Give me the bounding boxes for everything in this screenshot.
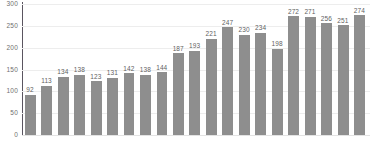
bar[interactable] [41, 86, 52, 135]
bar[interactable] [272, 49, 283, 135]
bar-value-label: 134 [57, 69, 68, 76]
bar[interactable] [239, 35, 250, 135]
x-axis-tick-label [220, 138, 236, 147]
x-axis-tick-label [170, 138, 186, 147]
x-axis-tick-label [71, 138, 87, 147]
bar[interactable] [222, 27, 233, 135]
bar-value-label: 193 [189, 43, 200, 50]
bar-slot[interactable]: 187 [170, 4, 186, 135]
x-axis-tick-label [154, 138, 170, 147]
plot-area: 9211313413812313114213814418719322124723… [22, 4, 370, 135]
bar[interactable] [354, 15, 365, 135]
x-axis-tick-label [236, 138, 252, 147]
bar-slot[interactable]: 247 [220, 4, 236, 135]
bar-value-label: 131 [107, 70, 118, 77]
bar-value-label: 272 [288, 9, 299, 16]
x-axis-tick-label [318, 138, 334, 147]
bar[interactable] [305, 17, 316, 135]
bar[interactable] [58, 77, 69, 136]
bar-value-label: 138 [74, 67, 85, 74]
bar-slot[interactable]: 142 [121, 4, 137, 135]
bar-slot[interactable]: 274 [351, 4, 367, 135]
x-axis-tick-label [335, 138, 351, 147]
bar-slot[interactable]: 138 [71, 4, 87, 135]
y-axis-tick-label: 100 [7, 88, 18, 95]
bar-slot[interactable]: 221 [203, 4, 219, 135]
x-axis-tick-label [302, 138, 318, 147]
bar-value-label: 271 [304, 9, 315, 16]
bar-slot[interactable]: 193 [187, 4, 203, 135]
x-axis-tick-labels [22, 138, 368, 147]
x-axis-tick-label [137, 138, 153, 147]
x-axis-tick-label [88, 138, 104, 147]
x-axis-tick-label [104, 138, 120, 147]
bar-value-label: 274 [354, 8, 365, 15]
bar[interactable] [107, 78, 118, 135]
bar[interactable] [255, 33, 266, 135]
y-axis-tick-label: 0 [14, 132, 18, 139]
x-axis-tick-label [269, 138, 285, 147]
bar-value-label: 247 [222, 20, 233, 27]
x-axis-tick-label [286, 138, 302, 147]
x-axis-tick-label [22, 138, 38, 147]
bar-slot[interactable]: 134 [55, 4, 71, 135]
bar[interactable] [206, 39, 217, 136]
bar-slot[interactable]: 123 [88, 4, 104, 135]
bar[interactable] [25, 95, 36, 135]
bar[interactable] [321, 23, 332, 135]
bar-slot[interactable]: 234 [253, 4, 269, 135]
bar-slot[interactable]: 271 [302, 4, 318, 135]
bar-slot[interactable]: 138 [137, 4, 153, 135]
x-axis-tick-label [187, 138, 203, 147]
x-axis-tick-label [121, 138, 137, 147]
bar-slot[interactable]: 198 [269, 4, 285, 135]
bar[interactable] [124, 73, 135, 135]
bar-slot[interactable]: 251 [335, 4, 351, 135]
y-axis-tick-label: 150 [7, 66, 18, 73]
bar[interactable] [157, 72, 168, 135]
bar-value-label: 123 [90, 74, 101, 81]
bar[interactable] [288, 16, 299, 135]
bar-slot[interactable]: 256 [318, 4, 334, 135]
bar-value-label: 144 [156, 65, 167, 72]
bar-value-label: 187 [173, 46, 184, 53]
x-axis-tick-label [253, 138, 269, 147]
y-axis-tick-label: 300 [7, 1, 18, 8]
y-axis-tick-label: 50 [10, 110, 18, 117]
y-axis-tick-label: 200 [7, 44, 18, 51]
x-axis-tick-label [38, 138, 54, 147]
bar-value-label: 230 [239, 27, 250, 34]
bar-value-label: 138 [140, 67, 151, 74]
bar[interactable] [173, 53, 184, 135]
bar[interactable] [74, 75, 85, 135]
bar[interactable] [91, 81, 102, 135]
bar-slot[interactable]: 131 [104, 4, 120, 135]
bar-value-label: 142 [123, 66, 134, 73]
bar-value-label: 113 [41, 78, 52, 85]
bar-value-label: 221 [206, 31, 217, 38]
bar-slot[interactable]: 230 [236, 4, 252, 135]
bar-value-label: 234 [255, 25, 266, 32]
bar-value-label: 198 [271, 41, 282, 48]
bar-value-label: 256 [321, 16, 332, 23]
bar-slot[interactable]: 272 [286, 4, 302, 135]
bar[interactable] [338, 25, 349, 135]
y-axis-tick-labels: 050100150200250300 [0, 0, 20, 147]
bar-slot[interactable]: 113 [38, 4, 54, 135]
bar-series: 9211313413812313114213814418719322124723… [22, 4, 368, 135]
bar-chart: 050100150200250300 921131341381231311421… [0, 0, 370, 147]
x-axis-tick-label [351, 138, 367, 147]
bar-value-label: 92 [26, 87, 33, 94]
bar-slot[interactable]: 92 [22, 4, 38, 135]
bar[interactable] [189, 51, 200, 135]
bar[interactable] [140, 75, 151, 135]
x-axis-tick-label [203, 138, 219, 147]
bar-value-label: 251 [337, 18, 348, 25]
x-axis-tick-label [55, 138, 71, 147]
bar-slot[interactable]: 144 [154, 4, 170, 135]
y-axis-tick-label: 250 [7, 23, 18, 30]
gridline [22, 135, 370, 136]
